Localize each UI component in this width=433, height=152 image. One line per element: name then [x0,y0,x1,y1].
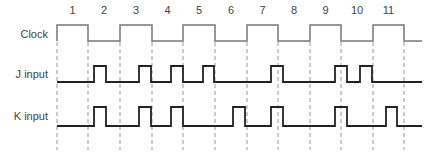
clock-waveform [57,25,422,41]
timing-diagram [0,0,433,152]
clock-edge-guides [57,42,404,150]
k-input-waveform [57,107,422,126]
j-input-waveform [57,66,422,82]
